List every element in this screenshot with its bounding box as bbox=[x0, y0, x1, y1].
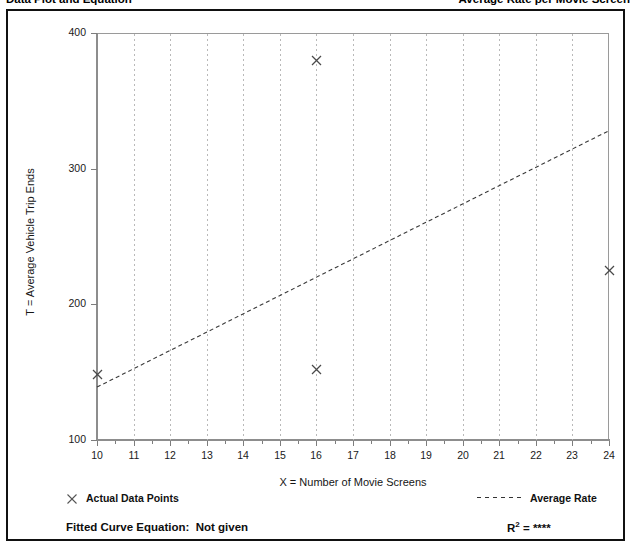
chart-card bbox=[6, 9, 625, 541]
equation-value: Not given bbox=[196, 521, 248, 533]
legend-dashed-line-icon bbox=[477, 497, 523, 498]
r-squared-value: R2 = **** bbox=[507, 520, 551, 534]
fitted-curve-equation: Fitted Curve Equation: Not given bbox=[66, 521, 248, 533]
legend-label-average-rate: Average Rate bbox=[530, 492, 597, 504]
legend-x-marker-icon bbox=[66, 491, 78, 503]
header-title-right: Average Rate per Movie Screen bbox=[458, 0, 630, 5]
page-header: Data Plot and Equation Average Rate per … bbox=[0, 0, 638, 9]
r2-assign: = bbox=[520, 522, 533, 534]
chart-page: Data Plot and Equation Average Rate per … bbox=[0, 0, 638, 549]
legend-label-actual-data-points: Actual Data Points bbox=[86, 492, 179, 504]
equation-label: Fitted Curve Equation: bbox=[66, 521, 189, 533]
header-title-left: Data Plot and Equation bbox=[6, 0, 132, 5]
r2-stars: **** bbox=[533, 522, 551, 534]
